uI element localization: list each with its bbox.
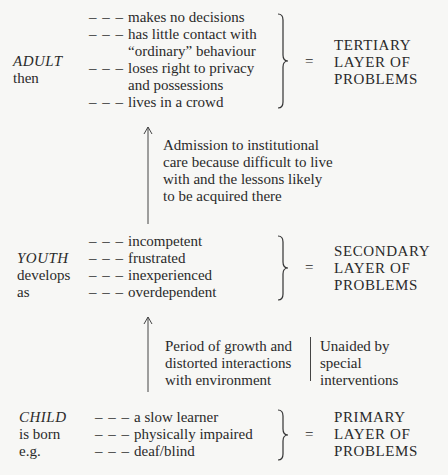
dash-marker: – – – [89, 267, 124, 283]
side-note-line-1: Unaided by [320, 338, 390, 355]
transition-1-line-2: care because difficult to live [163, 154, 333, 171]
equals-sign: = [305, 426, 313, 443]
dash-marker: – – – [95, 426, 130, 442]
child-label: CHILD [19, 409, 67, 426]
adult-item-1: – – –makes no decisions [89, 9, 245, 26]
youth-sublabel-2: as [17, 284, 30, 301]
adult-item-3: – – –loses right to privacy [89, 60, 254, 77]
secondary-result-3: PROBLEMS [334, 277, 418, 294]
child-item-2: – – –physically impaired [95, 426, 253, 443]
side-note-line-3: interventions [320, 372, 398, 389]
right-brace-icon [276, 12, 290, 110]
child-item-1: – – –a slow learner [95, 409, 218, 426]
transition-2-line-1: Period of growth and [165, 338, 292, 355]
dash-marker: – – – [89, 60, 124, 76]
equals-sign: = [305, 259, 313, 276]
item-text: has little contact with [128, 26, 257, 42]
dash-marker: – – – [89, 284, 124, 300]
dash-marker: – – – [89, 233, 124, 249]
youth-item-1: – – –incompetent [89, 233, 202, 250]
item-text: inexperienced [128, 267, 212, 283]
youth-item-3: – – –inexperienced [89, 267, 212, 284]
item-text: loses right to privacy [128, 60, 254, 76]
right-brace-icon [276, 234, 290, 302]
youth-item-2: – – –frustrated [89, 250, 185, 267]
transition-1-line-3: with and the lessons likely [163, 171, 322, 188]
transition-2-line-2: distorted interactions [165, 355, 291, 372]
equals-sign: = [305, 53, 313, 70]
dash-marker: – – – [89, 26, 124, 42]
child-item-3: – – –deaf/blind [95, 443, 195, 460]
transition-1-line-4: to be acquired there [163, 188, 282, 205]
adult-item-2: – – –has little contact with [89, 26, 257, 43]
transition-2-line-3: with environment [165, 372, 271, 389]
right-brace-icon [276, 408, 290, 462]
item-text: makes no decisions [128, 9, 245, 25]
item-text: overdependent [128, 284, 216, 300]
youth-label: YOUTH [17, 250, 69, 267]
item-text: deaf/blind [134, 443, 195, 459]
item-text: lives in a crowd [128, 94, 223, 110]
adult-item-3-cont: and possessions [128, 77, 223, 94]
dash-marker: – – – [89, 250, 124, 266]
dash-marker: – – – [89, 94, 124, 110]
item-text: physically impaired [134, 426, 253, 442]
child-sublabel-2: e.g. [19, 443, 41, 460]
tertiary-result-2: LAYER OF [334, 54, 410, 71]
dash-marker: – – – [95, 443, 130, 459]
primary-result-2: LAYER OF [334, 426, 410, 443]
item-text: frustrated [128, 250, 185, 266]
item-text: a slow learner [134, 409, 218, 425]
up-arrow-icon [142, 315, 154, 393]
adult-item-2-cont: “ordinary” behaviour [128, 43, 256, 60]
adult-label: ADULT [13, 53, 63, 70]
vertical-separator [310, 337, 311, 381]
tertiary-result-3: PROBLEMS [334, 71, 418, 88]
secondary-result-1: SECONDARY [334, 243, 430, 260]
up-arrow-icon [142, 125, 154, 225]
transition-1-line-1: Admission to institutional [163, 137, 319, 154]
item-text: incompetent [128, 233, 202, 249]
side-note-line-2: special [320, 355, 362, 372]
primary-result-1: PRIMARY [334, 409, 406, 426]
secondary-result-2: LAYER OF [334, 260, 410, 277]
dash-marker: – – – [95, 409, 130, 425]
youth-item-4: – – –overdependent [89, 284, 216, 301]
primary-result-3: PROBLEMS [334, 443, 418, 460]
tertiary-result-1: TERTIARY [334, 37, 411, 54]
child-sublabel-1: is born [19, 426, 60, 443]
dash-marker: – – – [89, 9, 124, 25]
adult-item-4: – – –lives in a crowd [89, 94, 223, 111]
adult-sublabel: then [13, 70, 39, 87]
youth-sublabel-1: develops [17, 267, 70, 284]
